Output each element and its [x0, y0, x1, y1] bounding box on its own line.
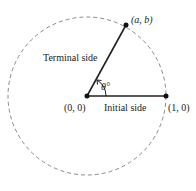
point-1-0 — [164, 94, 169, 99]
label-terminal-side: Terminal side — [43, 52, 98, 63]
origin-point — [85, 94, 90, 99]
label-angle: θ° — [101, 81, 110, 92]
point-a-b — [124, 23, 129, 28]
label-origin: (0, 0) — [64, 102, 86, 114]
label-initial-side: Initial side — [104, 102, 147, 113]
label-point-ab: (a, b) — [131, 14, 153, 26]
unit-circle-diagram: (a, b) Terminal side θ° (0, 0) Initial s… — [0, 0, 196, 191]
diagram-canvas: (a, b) Terminal side θ° (0, 0) Initial s… — [0, 0, 196, 191]
label-point-1-0: (1, 0) — [168, 102, 190, 114]
